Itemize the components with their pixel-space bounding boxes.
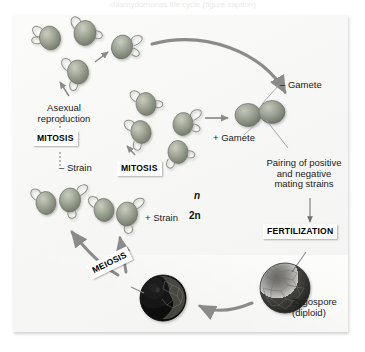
asexual-cell-cluster <box>29 16 144 91</box>
mitosis-top-label: MITOSIS <box>33 131 78 146</box>
minus-strain-cells <box>30 183 87 219</box>
figure-stage: chlamydomonas life cycle (figure caption… <box>0 0 365 352</box>
diploid-2n-label: 2n <box>189 210 201 221</box>
fertilization-label: FERTILIZATION <box>263 224 337 239</box>
mitosis-middle-label: MITOSIS <box>117 161 162 176</box>
haploid-n-label: n <box>194 190 200 201</box>
plus-strain-label: + Strain <box>145 213 178 224</box>
germinating-zygospore-icon <box>140 275 186 321</box>
asexual-label-arrow <box>60 82 69 96</box>
plus-strain-mitosis-cluster <box>123 86 202 168</box>
pairing-leader <box>266 120 288 148</box>
fusing-gametes <box>235 101 285 127</box>
plus-gamete-label: + Gamete <box>213 133 255 144</box>
asexual-to-gamete-arc <box>152 40 285 92</box>
asexual-division-arrow <box>95 52 108 62</box>
pairing-caption: Pairing of positive and negative mating … <box>248 158 360 190</box>
minus-strain-label: – Strain <box>59 163 92 174</box>
zygospore-caption: Zygospore (diploid) <box>292 297 337 318</box>
zygospore-to-germination-arrow <box>200 303 252 310</box>
minus-gamete-label: – Gamete <box>280 80 322 91</box>
asexual-reproduction-label: Asexual reproduction <box>33 103 95 124</box>
plus-strain-cells <box>88 194 144 235</box>
